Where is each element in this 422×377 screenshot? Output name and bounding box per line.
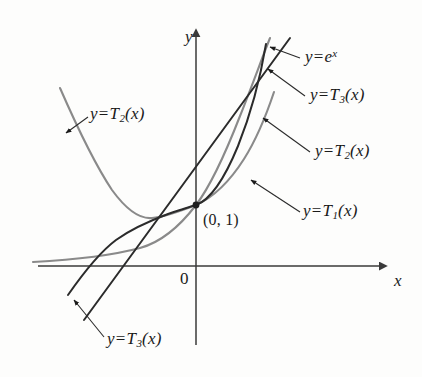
tangency-point-marker: [193, 202, 200, 209]
label-t3-bottom-arg: (x): [142, 329, 161, 348]
label-t3-bottom-fn: T: [127, 329, 137, 348]
label-t1-right-arg: (x): [338, 201, 357, 220]
leader-line-t3-bottom: [74, 300, 104, 337]
label-t3-top-lhs: y: [310, 85, 318, 104]
y-axis-label: y: [185, 28, 193, 45]
label-t1-right-lhs: y: [303, 201, 311, 220]
taylor-polynomial-figure: y x 0 (0, 1) y=ex y=T3(x) y=T2(x) y=T1(x…: [0, 0, 422, 377]
label-t2-right-arg: (x): [350, 141, 369, 160]
label-t2-right-fn: T: [335, 141, 345, 160]
leader-line-t1: [251, 180, 300, 212]
x-axis-label: x: [394, 272, 402, 289]
label-t2-left-lhs: y: [90, 104, 98, 123]
label-t1-right-fn: T: [323, 201, 333, 220]
label-t3-top: y=T3(x): [310, 86, 365, 105]
label-t3-bottom: y=T3(x): [107, 330, 162, 349]
label-t3-top-equals: =: [318, 85, 330, 104]
label-t3-top-arg: (x): [345, 85, 364, 104]
plot-canvas: [0, 0, 422, 377]
origin-label: 0: [180, 270, 189, 287]
label-t3-bottom-equals: =: [115, 329, 127, 348]
leader-line-exp: [270, 47, 300, 58]
label-t3-top-fn: T: [330, 85, 340, 104]
label-t1-right-equals: =: [311, 201, 323, 220]
label-t2-right: y=T2(x): [315, 142, 370, 161]
label-t2-left-arg: (x): [125, 104, 144, 123]
label-t2-right-lhs: y: [315, 141, 323, 160]
label-t2-left-equals: =: [98, 104, 110, 123]
leader-line-t2-right: [263, 118, 310, 152]
label-exponential-equals: =: [313, 47, 325, 66]
label-exponential-lhs: y: [305, 47, 313, 66]
label-t2-left: y=T2(x): [90, 105, 145, 124]
label-t3-bottom-lhs: y: [107, 329, 115, 348]
label-exponential: y=ex: [305, 48, 337, 65]
point-label-0-1: (0, 1): [203, 212, 239, 228]
leader-line-t2-left: [66, 117, 88, 133]
label-t2-left-fn: T: [110, 104, 120, 123]
label-exponential-exponent: x: [332, 47, 337, 59]
label-t2-right-equals: =: [323, 141, 335, 160]
label-t1-right: y=T1(x): [303, 202, 358, 221]
